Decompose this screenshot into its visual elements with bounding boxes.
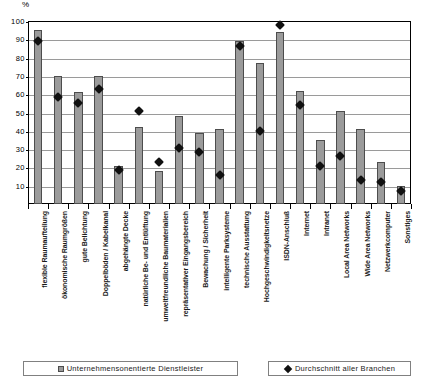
legend-bars-label: Unternehmensonentierte Dienstleister [67, 364, 204, 373]
y-axis-tick-mark [26, 40, 29, 41]
y-axis-tick-label: 30 [16, 146, 25, 154]
x-axis-tick-mark [68, 204, 69, 209]
x-axis-tick-mark [129, 204, 130, 209]
x-axis-category-label: Hochgeschwindigkeitsnetze [263, 211, 271, 329]
diamond-marker-icon [284, 364, 292, 372]
bar [276, 32, 284, 204]
y-axis-tick-mark [26, 150, 29, 151]
bar [175, 116, 183, 204]
legend-item-bars: Unternehmensonentierte Dienstleister [23, 361, 238, 376]
x-axis-tick-mark [169, 204, 170, 209]
bar [356, 129, 364, 204]
y-axis-tick-label: 80 [16, 55, 25, 63]
x-axis-category-label: technische Ausstattung [243, 211, 251, 329]
legend-item-average: Durchschnitt aller Branchen [268, 361, 411, 376]
bar-swatch-icon [58, 366, 64, 372]
y-axis-tick-mark [26, 187, 29, 188]
y-axis-tick-mark [26, 77, 29, 78]
x-axis-tick-mark [88, 204, 89, 209]
x-axis-category-label: Wide Area Networks [364, 211, 372, 329]
y-axis-tick-mark [26, 95, 29, 96]
x-axis-tick-mark [411, 204, 412, 209]
y-axis-tick-mark [26, 132, 29, 133]
gridline [29, 40, 410, 41]
x-axis-tick-mark [250, 204, 251, 209]
x-axis-category-label: Netzwerkcomputer [384, 211, 392, 329]
x-axis-category-label: Doppelböden / Kabelkanal [102, 211, 110, 329]
bar [235, 41, 243, 204]
x-axis-category-label: repräsentativer Eingangsbereich [182, 211, 190, 329]
y-axis-tick-label: 40 [16, 128, 25, 136]
x-axis-category-label: Sonstiges [404, 211, 412, 329]
x-axis-tick-mark [391, 204, 392, 209]
bar [316, 140, 324, 204]
x-axis-category-label: Intranet [323, 211, 331, 329]
y-axis-tick-mark [26, 22, 29, 23]
gridline [29, 95, 410, 96]
bar [34, 30, 42, 204]
x-axis-tick-mark [230, 204, 231, 209]
bar [155, 171, 163, 204]
y-axis-tick-label: 100 [11, 18, 25, 26]
x-axis-category-label: gute Belichtung [81, 211, 89, 329]
x-axis-category-label: flexible Raumaufteilung [41, 211, 49, 329]
bar [215, 129, 223, 204]
x-axis-tick-mark [351, 204, 352, 209]
x-axis-category-label: ökonomische Raumgrößen [61, 211, 69, 329]
x-axis-tick-mark [290, 204, 291, 209]
x-axis-tick-mark [209, 204, 210, 209]
legend-average-label: Durchschnitt aller Branchen [295, 364, 395, 373]
chart-container: % 102030405060708090100 flexible Raumauf… [0, 0, 421, 384]
y-axis-tick-label: 20 [16, 164, 25, 172]
x-axis-category-label: Local Area Networks [343, 211, 351, 329]
y-axis-tick-mark [26, 168, 29, 169]
gridline [29, 77, 410, 78]
y-axis-tick-label: 90 [16, 36, 25, 44]
x-axis-tick-mark [28, 204, 29, 209]
x-axis-category-label: ISDN-Anschluß [283, 211, 291, 329]
y-axis-tick-label: 10 [16, 183, 25, 191]
x-axis-category-label: intelligente Parksysteme [223, 211, 231, 329]
x-axis-tick-mark [330, 204, 331, 209]
y-axis-tick-label: 60 [16, 91, 25, 99]
x-axis-category-label: Bewachung / Sicherheit [202, 211, 210, 329]
y-axis-tick-label: 50 [16, 110, 25, 118]
x-axis-tick-mark [189, 204, 190, 209]
x-axis-category-label: natürliche Be- und Entlüftung [142, 211, 150, 329]
x-axis-category-label: umweltfreundliche Baumaterialien [162, 211, 170, 329]
y-axis-tick-mark [26, 59, 29, 60]
x-axis-tick-mark [48, 204, 49, 209]
x-axis-tick-mark [270, 204, 271, 209]
bar [94, 76, 102, 204]
bar [195, 133, 203, 204]
x-axis-tick-mark [310, 204, 311, 209]
x-axis-tick-mark [109, 204, 110, 209]
y-axis-unit-label: % [22, 1, 29, 9]
x-axis-tick-mark [371, 204, 372, 209]
x-axis-category-label: abgehängte Decke [122, 211, 130, 329]
bar [74, 92, 82, 204]
y-axis-tick-mark [26, 114, 29, 115]
gridline [29, 59, 410, 60]
y-axis-tick-label: 70 [16, 73, 25, 81]
bar [135, 127, 143, 204]
x-axis-category-label: Internet [303, 211, 311, 329]
gridline [29, 114, 410, 115]
x-axis-tick-mark [149, 204, 150, 209]
